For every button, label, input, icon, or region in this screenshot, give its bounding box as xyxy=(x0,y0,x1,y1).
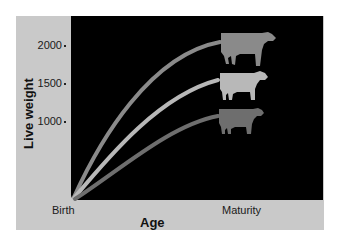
tick-mark xyxy=(64,121,66,123)
tick-mark xyxy=(64,45,66,47)
cow-large-icon xyxy=(221,32,276,66)
cow-small-icon xyxy=(219,108,264,134)
x-tick-birth: Birth xyxy=(52,204,75,216)
y-tick-label: 2000 xyxy=(38,39,62,51)
y-tick-1500: 1500 xyxy=(26,77,66,89)
curve-small xyxy=(75,116,218,199)
tick-mark xyxy=(64,83,66,85)
y-tick-2000: 2000 xyxy=(26,39,66,51)
y-tick-label: 1500 xyxy=(38,77,62,89)
x-axis-label: Age xyxy=(140,215,165,230)
curve-medium xyxy=(74,80,218,198)
y-tick-label: 1000 xyxy=(38,115,62,127)
x-tick-maturity: Maturity xyxy=(222,204,261,216)
cow-medium-icon xyxy=(220,71,268,100)
y-tick-1000: 1000 xyxy=(26,115,66,127)
